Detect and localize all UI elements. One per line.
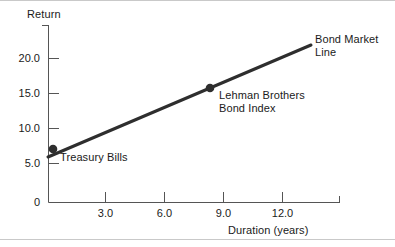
bond-market-line-chart: Return Duration (years) 20.0 15.0 10.0 5… [0,0,395,247]
x-axis-ticks [106,192,283,203]
y-tick-label-15: 15.0 [2,87,40,99]
x-tick-label-9: 9.0 [203,207,244,219]
y-tick-label-0: 0 [2,196,40,208]
annotation-lehman-brothers-bond-index: Lehman Brothers Bond Index [219,89,305,114]
data-point-lehman-brothers-bond-index [206,84,215,93]
y-tick-label-5: 5.0 [2,157,40,169]
data-point-treasury-bills [49,145,58,154]
x-tick-label-6: 6.0 [144,207,185,219]
y-tick-label-10: 10.0 [2,122,40,134]
x-axis-title: Duration (years) [228,224,308,237]
annotation-bond-market-line: Bond Market Line [315,33,378,58]
x-tick-label-3: 3.0 [85,207,126,219]
y-axis-title: Return [27,8,61,21]
y-tick-label-20: 20.0 [2,52,40,64]
x-tick-label-12: 12.0 [262,207,303,219]
annotation-treasury-bills: Treasury Bills [60,151,128,164]
